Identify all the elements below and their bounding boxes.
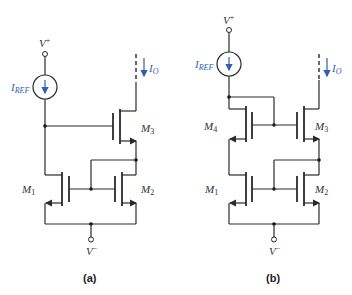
iref-label-b: IREF (194, 58, 213, 72)
transistor-m3-a (113, 82, 136, 175)
vplus-label-b: V+ (223, 13, 235, 26)
caption-a: (a) (83, 272, 97, 284)
vminus-terminal-b (272, 237, 277, 242)
iref-label-a: IREF (10, 81, 29, 95)
m3-label-b: M3 (314, 120, 328, 134)
m2-label-b: M2 (314, 183, 328, 197)
transistor-m2-b (297, 172, 319, 224)
io-label-a: IO (148, 62, 159, 76)
m1-label-b: M1 (204, 183, 218, 197)
vplus-terminal-a (43, 52, 48, 57)
panel-a: V+ IREF M3 IO (10, 36, 159, 284)
m2-label-a: M2 (140, 183, 154, 197)
transistor-m4-b (229, 106, 252, 175)
m3-label-a: M3 (140, 122, 154, 136)
transistor-m2-a (115, 172, 136, 224)
transistor-m1-a (45, 172, 69, 224)
vplus-label-a: V+ (39, 36, 51, 49)
caption-b: (b) (266, 272, 280, 284)
m1-label-a: M1 (21, 183, 35, 197)
vminus-terminal-a (89, 237, 94, 242)
current-source-icon (217, 52, 241, 76)
panel-b: V+ IREF M4 M3 (194, 13, 342, 284)
vplus-terminal-b (227, 28, 232, 33)
current-source-icon (33, 75, 57, 99)
io-label-b: IO (331, 62, 342, 76)
m4-label-b: M4 (203, 120, 217, 134)
vminus-label-b: V− (269, 244, 281, 257)
transistor-m1-b (229, 172, 252, 224)
vminus-label-a: V− (86, 244, 98, 257)
circuit-diagram: V+ IREF M3 IO (0, 0, 352, 295)
